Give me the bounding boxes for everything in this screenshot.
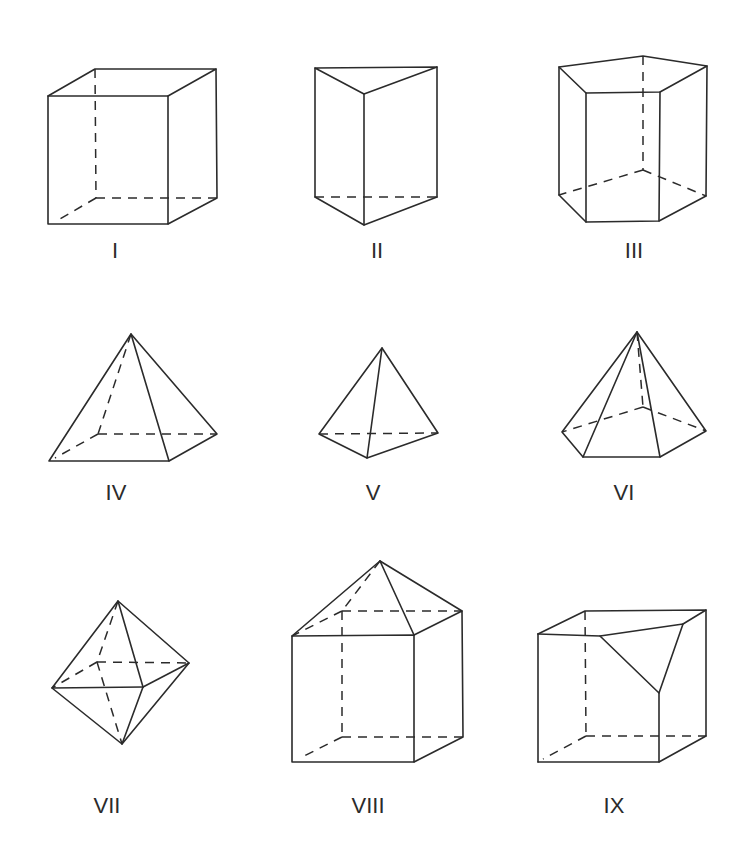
label-iv: IV	[106, 480, 127, 505]
label-i: I	[112, 238, 118, 263]
shape-vii-octahedron: VII	[52, 601, 189, 818]
polyhedra-diagram: I II III IV V	[0, 0, 749, 857]
label-ii: II	[371, 238, 383, 263]
label-vi: VI	[614, 480, 635, 505]
shape-ii-triangular-prism: II	[315, 67, 437, 263]
shape-ix-truncated-cube: IX	[538, 610, 706, 818]
label-ix: IX	[604, 793, 625, 818]
shape-v-triangular-pyramid: V	[319, 348, 438, 505]
shape-iv-square-pyramid: IV	[49, 334, 217, 505]
shape-viii-cube-with-pyramid: VIII	[292, 561, 463, 818]
label-v: V	[366, 480, 381, 505]
label-vii: VII	[94, 793, 121, 818]
label-viii: VIII	[351, 793, 384, 818]
shape-i-rectangular-prism: I	[48, 69, 217, 263]
shape-vi-pentagonal-pyramid: VI	[562, 332, 706, 505]
label-iii: III	[625, 238, 643, 263]
shape-iii-pentagonal-prism: III	[559, 56, 707, 263]
